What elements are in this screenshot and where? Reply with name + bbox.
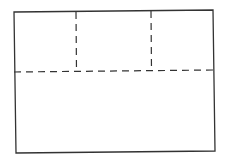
vertical-dashed-divider-left — [76, 12, 77, 71]
horizontal-dashed-divider — [14, 70, 213, 72]
divided-rectangle-diagram — [0, 0, 232, 159]
vertical-dashed-divider-right — [151, 11, 152, 70]
outer-rectangle — [14, 10, 215, 153]
